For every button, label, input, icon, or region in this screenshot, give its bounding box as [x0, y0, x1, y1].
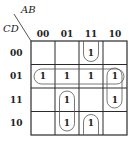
cell-cd01-ab00: 1: [31, 65, 55, 89]
column-header-10: 10: [103, 29, 127, 39]
cell-cd11-ab01: 1: [55, 88, 79, 112]
column-variable-label: AB: [21, 5, 36, 15]
row-header-01: 01: [10, 71, 30, 81]
cell-cd01-ab01: 1: [55, 65, 79, 89]
cell-cd10-ab11: 1: [79, 112, 103, 136]
column-header-01: 01: [55, 29, 79, 39]
cell-cd01-ab10: 1: [103, 65, 127, 89]
row-header-10: 10: [10, 118, 30, 128]
cell-cd11-ab10: 1: [103, 88, 127, 112]
cell-cd11-ab11: [79, 88, 103, 112]
cell-cd01-ab11: 1: [79, 65, 103, 89]
cell-cd10-ab10: [103, 112, 127, 136]
cell-cd00-ab11: 1: [79, 41, 103, 65]
cell-cd10-ab01: 1: [55, 112, 79, 136]
cell-cd00-ab10: [103, 41, 127, 65]
column-header-00: 00: [31, 29, 55, 39]
row-variable-label: CD: [3, 24, 19, 34]
row-header-11: 11: [10, 95, 30, 105]
cell-cd00-ab01: [55, 41, 79, 65]
cell-cd10-ab00: [31, 112, 55, 136]
cell-cd00-ab00: [31, 41, 55, 65]
row-header-00: 00: [10, 48, 30, 58]
column-header-11: 11: [79, 29, 103, 39]
karnaugh-map: AB CD 00 01 11 10 00 01 11 10 1 1 1 1 1 …: [0, 0, 134, 147]
cell-cd11-ab00: [31, 88, 55, 112]
